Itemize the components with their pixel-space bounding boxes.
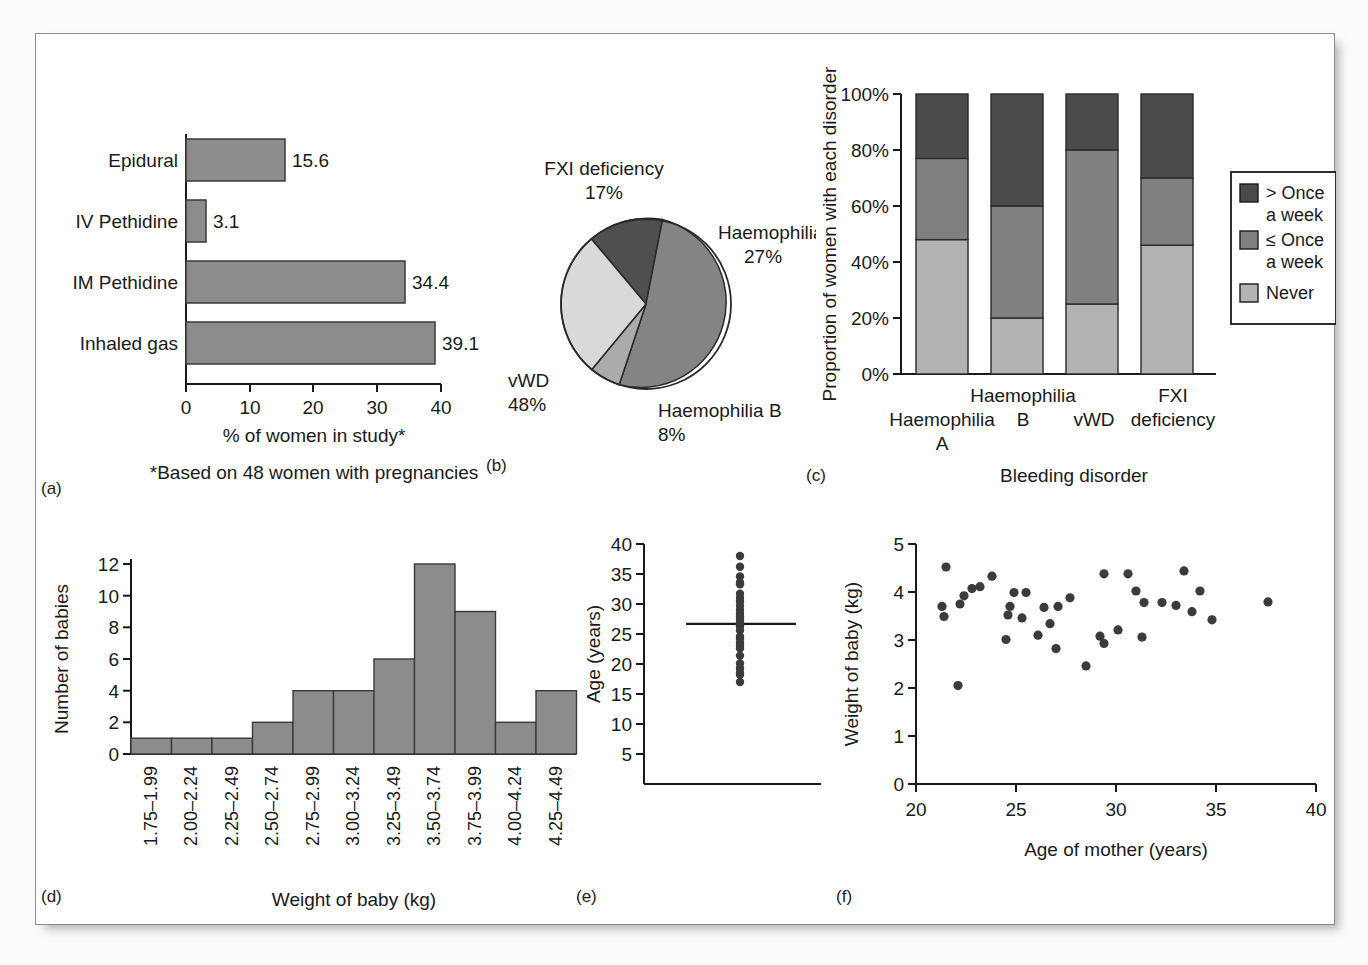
panel-d-x-tick-labels: 1.75–1.99 2.00–2.24 2.25–2.49 2.50–2.74 … [141, 766, 566, 846]
panel-e-ytick-20: 20 [611, 654, 632, 675]
panel-f-xtick-4: 40 [1305, 799, 1326, 820]
panel-c-legend-label-0-line0: > Once [1266, 183, 1325, 203]
panel-f-point [1021, 588, 1030, 597]
panel-a-x-ticks [186, 384, 441, 392]
panel-f-point [1113, 625, 1122, 634]
panel-a-bar-epidural [186, 139, 285, 181]
panel-letter-d: (d) [41, 887, 62, 907]
panel-d-bars [131, 564, 577, 754]
panel-f-point [959, 591, 968, 600]
panel-f-ytick-4: 4 [893, 582, 904, 603]
panel-d-ytick-1: 2 [108, 712, 119, 733]
panel-a-bars [186, 139, 435, 364]
panel-d-xtick-9: 4.00–4.24 [505, 766, 525, 846]
panel-c-cat-3-line1: deficiency [1131, 409, 1216, 430]
panel-e-y-ticks [636, 544, 644, 754]
panel-a-x-axis-label: % of women in study* [223, 425, 406, 446]
panel-e-dot [736, 678, 744, 686]
panel-f-xtick-3: 35 [1205, 799, 1226, 820]
panel-b-label-haem-a: Haemophilia A [718, 222, 816, 243]
panel-letter-f: (f) [836, 887, 852, 907]
panel-d-x-axis-label: Weight of baby (kg) [272, 889, 436, 910]
panel-a-xtick-0: 0 [181, 397, 192, 418]
panel-f-point [1195, 586, 1204, 595]
panel-c-cat-2-line0: vWD [1073, 409, 1114, 430]
panel-b-label-haem-b: Haemophilia B [658, 400, 782, 421]
panel-f-point [953, 681, 962, 690]
panel-a-val-1: 3.1 [213, 211, 239, 232]
panel-f-point [1263, 597, 1272, 606]
panel-f-point [1005, 602, 1014, 611]
panel-e-dot [736, 563, 744, 571]
panel-d-xtick-10: 4.25–4.49 [546, 766, 566, 846]
panel-d-svg: 0 2 4 6 8 10 12 [36, 494, 616, 924]
panel-letter-e: (e) [576, 887, 597, 907]
panel-f-point [1065, 593, 1074, 602]
panel-f-point [1081, 661, 1090, 670]
panel-d-ytick-3: 6 [108, 649, 119, 670]
panel-f-y-tick-labels: 0 1 2 3 4 5 [893, 534, 904, 795]
panel-a-xtick-3: 30 [366, 397, 387, 418]
panel-f-ytick-2: 2 [893, 678, 904, 699]
panel-c-ytick-4: 80% [851, 140, 889, 161]
panel-c-cat-1-line1: B [1017, 409, 1030, 430]
panel-d-ytick-5: 10 [98, 586, 119, 607]
panel-c-bar-fxi-deficiency [1141, 94, 1193, 374]
panel-e-ytick-25: 25 [611, 624, 632, 645]
panel-a-category-labels: Epidural IV Pethidine IM Pethidine Inhal… [72, 150, 178, 354]
panel-d-ytick-6: 12 [98, 554, 119, 575]
panel-f-points [937, 562, 1272, 690]
panel-c-y-axis-label: Proportion of women with each disorder [819, 66, 840, 401]
panel-a-xtick-4: 40 [430, 397, 451, 418]
panel-f-point [1157, 598, 1166, 607]
panel-d-bar-8 [455, 612, 496, 755]
panel-c-legend-label-1-line0: ≤ Once [1266, 230, 1324, 250]
panel-a-cat-1: IV Pethidine [76, 211, 178, 232]
panel-b-value-haem-a: 27% [744, 246, 782, 267]
panel-letter-c: (c) [806, 466, 826, 486]
panel-c-bar-vwd [1066, 94, 1118, 374]
panel-f-point [1051, 644, 1060, 653]
panel-a-anaesthesia-bar-chart: 0 10 20 30 40 Epidural IV Pethidine IM P… [36, 94, 506, 494]
panel-d-bar-0 [131, 738, 172, 754]
panel-c-cat-0-line0: Haemophilia [889, 409, 995, 430]
panel-e-ytick-30: 30 [611, 594, 632, 615]
panel-e-ytick-10: 10 [611, 714, 632, 735]
panel-c-legend-label-0-line1: a week [1266, 205, 1324, 225]
panel-a-val-0: 15.6 [292, 150, 329, 171]
panel-f-point [987, 572, 996, 581]
panel-d-xtick-2: 2.25–2.49 [222, 766, 242, 846]
figure-frame: 0 10 20 30 40 Epidural IV Pethidine IM P… [35, 33, 1335, 925]
panel-d-ytick-4: 8 [108, 617, 119, 638]
panel-b-pie-slices [561, 218, 731, 389]
panel-d-bar-2 [212, 738, 253, 754]
panel-c-ytick-1: 20% [851, 308, 889, 329]
panel-f-ytick-5: 5 [893, 534, 904, 555]
panel-f-ytick-3: 3 [893, 630, 904, 651]
panel-f-point [1017, 613, 1026, 622]
panel-f-point [1053, 602, 1062, 611]
panel-f-point [1039, 603, 1048, 612]
panel-c-bar-haemophilia-a [916, 94, 968, 374]
panel-b-value-haem-b: 8% [658, 424, 686, 445]
panel-d-baby-weight-histogram: 0 2 4 6 8 10 12 [36, 494, 616, 924]
panel-a-xtick-1: 10 [239, 397, 260, 418]
panel-f-point [1187, 607, 1196, 616]
panel-f-point [939, 612, 948, 621]
panel-b-value-fxi: 17% [585, 182, 623, 203]
panel-a-cat-2: IM Pethidine [72, 272, 178, 293]
panel-c-svg: 0% 20% 40% 60% 80% 100% [806, 44, 1336, 494]
panel-d-bar-5 [334, 691, 375, 754]
panel-a-footnote: *Based on 48 women with pregnancies [150, 462, 478, 483]
panel-f-x-ticks [916, 784, 1316, 792]
panel-e-ytick-5: 5 [621, 744, 632, 765]
panel-f-xtick-2: 30 [1105, 799, 1126, 820]
panel-a-val-3: 39.1 [442, 333, 479, 354]
panel-d-y-ticks [123, 564, 131, 754]
panel-c-y-tick-labels: 0% 20% 40% 60% 80% 100% [840, 84, 889, 385]
panel-d-ytick-0: 0 [108, 744, 119, 765]
panel-e-ytick-15: 15 [611, 684, 632, 705]
panel-f-point [1179, 566, 1188, 575]
panel-f-point [1003, 610, 1012, 619]
panel-f-point [941, 562, 950, 571]
